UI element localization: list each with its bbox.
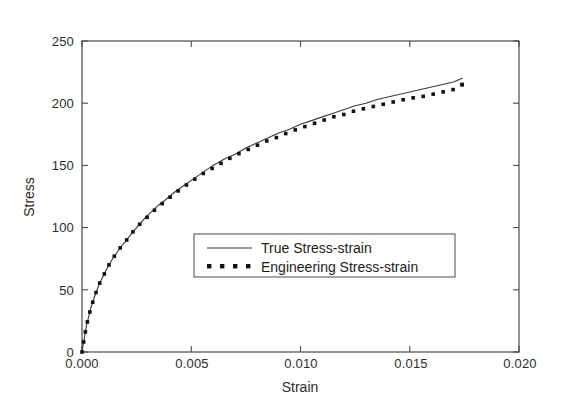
- legend-label-true-stress-strain: True Stress-strain: [261, 240, 372, 256]
- x-tick-label-0-005: 0.005: [162, 356, 222, 371]
- x-tick-label-0-000: 0.000: [52, 356, 112, 371]
- x-tick-label-0-010: 0.010: [271, 356, 331, 371]
- true-stress-strain-curve: [82, 78, 462, 352]
- y-tick-label-250: 250: [44, 34, 74, 49]
- stress-strain-chart-figure: 250 200 150 100 50 0 0.000 0.005 0.010 0…: [0, 0, 561, 413]
- y-tick-label-150: 150: [44, 158, 74, 173]
- chart-canvas: [0, 0, 561, 413]
- y-axis-title: Stress: [21, 167, 37, 227]
- x-axis-title: Strain: [240, 379, 360, 395]
- x-axis-ticks: [82, 41, 519, 352]
- y-tick-label-50: 50: [44, 283, 74, 298]
- engineering-stress-strain-curve: [80, 83, 464, 354]
- y-tick-label-200: 200: [44, 96, 74, 111]
- legend-label-engineering-stress-strain: Engineering Stress-strain: [261, 259, 418, 275]
- x-tick-label-0-015: 0.015: [381, 356, 441, 371]
- plot-area-border: [82, 41, 519, 352]
- x-tick-label-0-020: 0.020: [490, 356, 550, 371]
- y-tick-label-100: 100: [44, 220, 74, 235]
- y-axis-ticks: [82, 41, 519, 352]
